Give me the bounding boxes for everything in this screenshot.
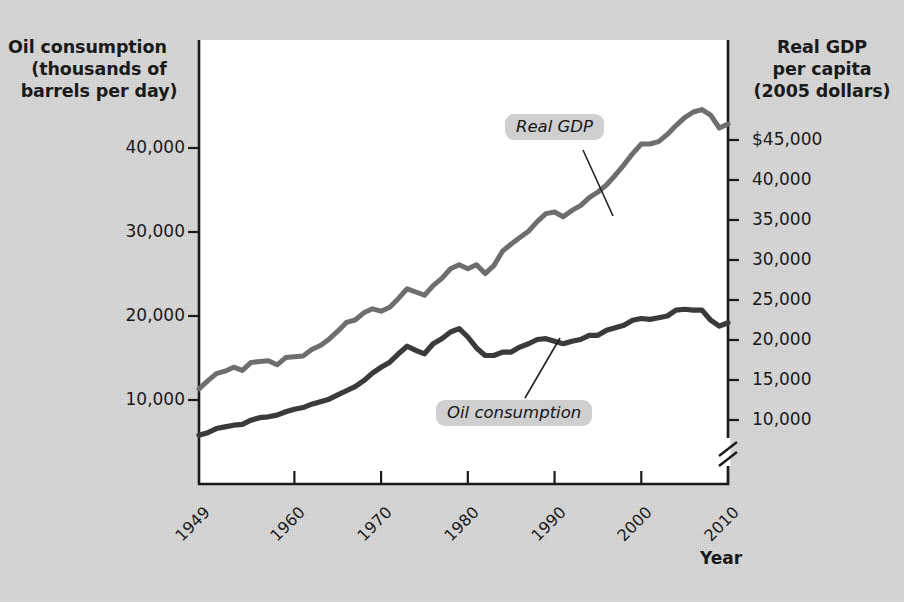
series-label-oil: Oil consumption bbox=[436, 400, 592, 426]
chart-plot bbox=[0, 0, 904, 602]
series-label-gdp: Real GDP bbox=[505, 114, 604, 140]
figure-container: Oil consumption (thousands of barrels pe… bbox=[0, 0, 904, 602]
